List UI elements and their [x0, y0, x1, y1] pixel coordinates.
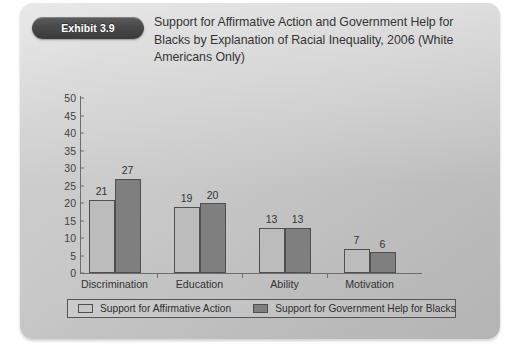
bar-group: 2127	[89, 98, 141, 273]
bar-group: 1920	[174, 98, 226, 273]
x-axis-tick-mark	[242, 274, 243, 278]
y-axis-tick-label: 10	[52, 233, 76, 244]
bar-affirmative-action	[344, 249, 370, 274]
x-axis-category-label: Ability	[270, 278, 299, 290]
legend-label: Support for Affirmative Action	[100, 303, 231, 314]
bar-group: 76	[344, 98, 396, 273]
y-axis-tick-label: 0	[52, 268, 76, 279]
bar-value-label: 13	[266, 214, 278, 225]
exhibit-panel: Exhibit 3.9 Support for Affirmative Acti…	[20, 3, 500, 339]
x-axis-line	[80, 273, 422, 274]
legend-label: Support for Government Help for Blacks	[275, 303, 456, 314]
bar-value-label: 7	[354, 235, 360, 246]
x-axis-tick-mark	[157, 274, 158, 278]
plot-area: 21271920131376	[80, 98, 420, 273]
bar-chart: 05101520253035404550 21271920131376 Disc…	[20, 81, 500, 339]
exhibit-title: Support for Affirmative Action and Gover…	[154, 14, 484, 67]
bar-value-label: 13	[292, 214, 304, 225]
bar-government-help	[115, 179, 141, 274]
bar-value-label: 21	[96, 186, 108, 197]
exhibit-header: Exhibit 3.9 Support for Affirmative Acti…	[20, 3, 500, 81]
legend-item: Support for Government Help for Blacks	[253, 303, 456, 314]
y-axis-tick-label: 30	[52, 163, 76, 174]
y-axis-tick-label: 40	[52, 128, 76, 139]
y-axis-tick-label: 50	[52, 93, 76, 104]
x-axis-category-label: Motivation	[345, 278, 394, 290]
legend-color-swatch	[253, 304, 268, 313]
y-axis-tick-label: 25	[52, 180, 76, 191]
y-axis-tick-label: 20	[52, 198, 76, 209]
y-axis-tick-label: 5	[52, 250, 76, 261]
legend-item: Support for Affirmative Action	[78, 303, 231, 314]
legend-color-swatch	[78, 304, 93, 313]
y-axis-tick-label: 15	[52, 215, 76, 226]
y-axis-tick-label: 45	[52, 110, 76, 121]
x-axis-category-label: Education	[176, 278, 224, 290]
x-axis-tick-mark	[327, 274, 328, 278]
bar-government-help	[370, 252, 396, 273]
bar-government-help	[285, 228, 311, 274]
bar-value-label: 19	[181, 193, 193, 204]
bar-group: 1313	[259, 98, 311, 273]
bar-value-label: 20	[207, 190, 219, 201]
exhibit-number-badge: Exhibit 3.9	[32, 17, 144, 39]
chart-legend: Support for Affirmative ActionSupport fo…	[67, 299, 456, 318]
bar-government-help	[200, 203, 226, 273]
bar-affirmative-action	[174, 207, 200, 274]
bar-value-label: 27	[122, 165, 134, 176]
x-axis-category-label: Discrimination	[81, 278, 148, 290]
bar-affirmative-action	[89, 200, 115, 274]
bar-affirmative-action	[259, 228, 285, 274]
y-axis-tick-label: 35	[52, 145, 76, 156]
bar-value-label: 6	[380, 239, 386, 250]
